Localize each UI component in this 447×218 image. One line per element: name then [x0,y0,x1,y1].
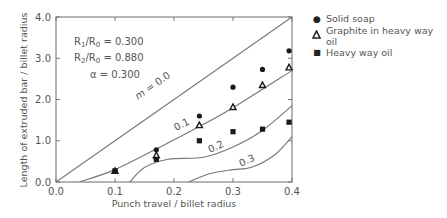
square-marker-icon [260,127,265,132]
curve-label-0-2: 0.2 [206,138,225,155]
triangle-marker-icon [312,30,322,41]
y-axis-label: Length of extruded bar / billet radius [18,13,29,188]
y-tick-label: 0.0 [35,177,51,188]
x-tick-label: 0.0 [48,186,64,197]
square-marker-icon [230,129,235,134]
annotation-alpha: α = 0.300 [90,69,140,80]
curve-label-0-1: 0.1 [172,116,191,133]
x-tick-label: 0.2 [166,186,182,197]
x-tick-label: 0.1 [107,186,123,197]
legend: ● Solid soap Graphite in heavy way oil ■… [312,10,447,61]
legend-label: Solid soap [326,13,375,24]
triangle-marker-icon [286,64,292,70]
circle-marker-icon [197,113,202,118]
x-tick-label: 0.4 [284,186,300,197]
x-axis-label: Punch travel / billet radius [112,198,237,209]
circle-marker-icon [286,48,291,53]
legend-item-graphite: Graphite in heavy way oil [312,27,447,44]
legend-item-heavy-way-oil: ■ Heavy way oil [312,44,447,61]
triangle-marker-icon [230,104,236,110]
legend-label: Graphite in heavy way oil [326,25,447,47]
square-marker-icon [154,157,159,162]
triangle-marker-icon [196,122,202,128]
circle-marker-icon: ● [312,14,322,24]
data-points [112,48,292,173]
square-marker-icon [286,120,291,125]
y-tick-label: 4.0 [35,12,51,23]
x-tick-label: 0.3 [225,186,241,197]
square-marker-icon [197,138,202,143]
triangle-marker-icon [260,82,266,88]
annotation-r1-r0: R1/R0 = 0.300 [74,36,144,49]
square-marker-icon: ■ [312,48,322,57]
circle-marker-icon [230,85,235,90]
y-tick-label: 3.0 [35,53,51,64]
annotation-r2-r0: R2/R0 = 0.880 [74,52,144,65]
circle-marker-icon [260,67,265,72]
y-tick-label: 1.0 [35,135,51,146]
square-marker-icon [112,168,117,173]
y-tick-label: 2.0 [35,94,51,105]
legend-label: Heavy way oil [326,47,392,58]
